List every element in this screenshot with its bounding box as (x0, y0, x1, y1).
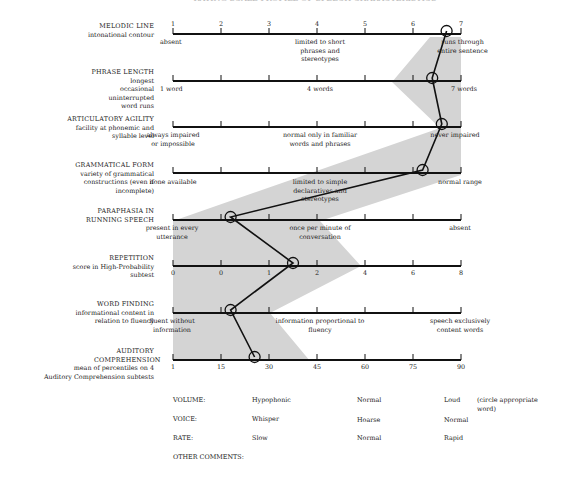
voice-option[interactable]: Normal (444, 416, 468, 425)
anchor: normal range (430, 178, 490, 187)
label-auditory-comprehension: AUDITORY COMPREHENSIONmean of percentile… (0, 347, 154, 381)
rate-option[interactable]: Normal (357, 434, 381, 443)
tick-label: 3 (267, 20, 271, 28)
anchor: limited to short phrases and stereotypes (285, 38, 355, 64)
anchor: 7 words (444, 85, 484, 94)
volume-option[interactable]: Loud (444, 396, 460, 405)
label-phrase-length: PHRASE LENGTHlongest occasional uninterr… (0, 68, 154, 111)
tick-label: 1 (267, 269, 271, 277)
voice-label: VOICE: (173, 415, 197, 424)
label-melodic-line: MELODIC LINEintonational contour (0, 22, 154, 39)
tick-label: 0 (171, 269, 175, 277)
anchor: 4 words (285, 85, 355, 94)
tick-label: 5 (363, 20, 367, 28)
tick-label: 4 (363, 269, 367, 277)
anchor: none available (143, 178, 203, 187)
anchor: normal only in familiar words and phrase… (275, 131, 365, 148)
volume-option[interactable]: Normal (357, 396, 381, 405)
anchor: runs through entire sentence (435, 38, 490, 55)
tick-label: 1 (171, 20, 175, 28)
other-comments-label: OTHER COMMENTS: (173, 453, 244, 462)
tick-label: 75 (409, 363, 417, 371)
label-word-finding: WORD FINDINGinformational content in rel… (0, 300, 154, 326)
tick-label: 2 (219, 20, 223, 28)
rate-option[interactable]: Rapid (444, 434, 463, 443)
tick-label: 7 (459, 20, 463, 28)
anchor: absent (160, 38, 190, 47)
tick-label: 6 (411, 269, 415, 277)
anchor: fluent without information (143, 317, 201, 334)
tick-label: 1 (171, 363, 175, 371)
volume-option[interactable]: Hypophonic (252, 396, 291, 405)
rate-label: RATE: (173, 434, 193, 443)
anchor: always impaired or impossible (143, 131, 203, 148)
rate-option[interactable]: Slow (252, 434, 268, 443)
tick-label: 8 (459, 269, 463, 277)
tick-label: 4 (315, 20, 319, 28)
anchor: never impaired (430, 131, 480, 140)
anchor: 1 word (160, 85, 190, 94)
tick-label: 30 (265, 363, 273, 371)
volume-label: VOLUME: (173, 396, 205, 405)
voice-option[interactable]: Hoarse (357, 416, 380, 425)
anchor: present in every utterance (143, 224, 201, 241)
tick-label: 6 (411, 20, 415, 28)
tick-label: 45 (313, 363, 321, 371)
voice-option[interactable]: Whisper (252, 415, 279, 424)
tick-label: 90 (457, 363, 465, 371)
label-repetition: REPETITIONscore in High-Probability subt… (0, 254, 154, 280)
tick-label: 60 (361, 363, 369, 371)
tick-label: 2 (315, 269, 319, 277)
tick-label: 15 (217, 363, 225, 371)
anchor: information proportional to fluency (270, 317, 370, 334)
circle-note: (circle appropriate word) (477, 396, 557, 413)
anchor: absent (445, 224, 475, 233)
anchor: limited to simple declaratives and stere… (285, 178, 355, 204)
label-articulatory-agility: ARTICULATORY AGILITYfacility at phonemic… (0, 115, 154, 141)
anchor: speech exclusively content words (420, 317, 500, 334)
anchor: once per minute of conversation (280, 224, 360, 241)
label-paraphasia: PARAPHASIA IN RUNNING SPEECH (0, 207, 154, 224)
label-grammatical-form: GRAMMATICAL FORMvariety of grammatical c… (0, 161, 154, 195)
tick-label: 0 (219, 269, 223, 277)
